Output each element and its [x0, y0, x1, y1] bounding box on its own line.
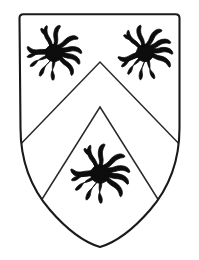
heraldic-illustration-canvas: A chevron between three estoiles sable C…	[0, 0, 199, 260]
coat-of-arms-drawing	[0, 0, 199, 260]
